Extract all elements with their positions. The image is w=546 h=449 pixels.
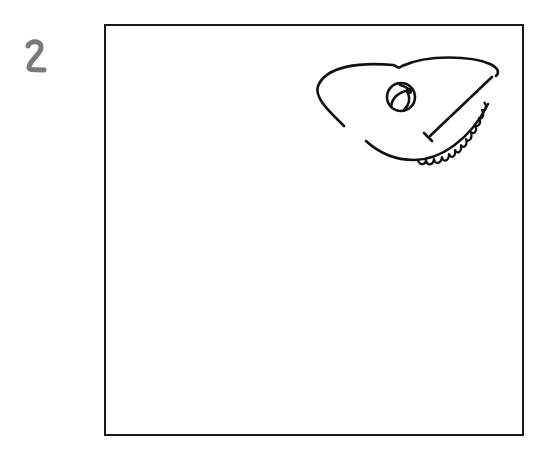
mouth-line	[430, 77, 492, 136]
jaw-line	[366, 104, 488, 160]
jaw-scalloped-edge	[418, 102, 486, 164]
chameleon-drawing	[0, 0, 546, 449]
eye-pupil	[406, 88, 412, 94]
